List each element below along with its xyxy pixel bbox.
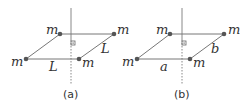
mass-label-bottom-right: m	[82, 55, 94, 70]
panel-a: m m m m L L (a)	[11, 8, 129, 101]
mass-dot-top-left	[168, 32, 173, 37]
mass-label-top-left: m	[46, 22, 58, 37]
side-label-slanted: L	[100, 41, 110, 56]
panel-caption: (a)	[63, 88, 78, 101]
mass-dot-bottom-left	[24, 57, 29, 62]
side-label-horizontal: a	[160, 59, 168, 74]
diagram-canvas: m m m m L L (a) m m m m a b (b)	[0, 0, 249, 108]
mass-label-top-right: m	[228, 22, 240, 37]
mass-label-top-right: m	[117, 22, 129, 37]
side-label-horizontal: L	[48, 59, 58, 74]
mass-label-bottom-left: m	[122, 54, 134, 69]
panel-b: m m m m a b (b)	[122, 8, 240, 101]
mass-dot-top-left	[58, 32, 63, 37]
side-label-slanted: b	[211, 41, 219, 56]
mass-label-bottom-right: m	[193, 55, 205, 70]
mass-dot-bottom-right	[77, 57, 82, 62]
mass-dot-bottom-right	[188, 57, 193, 62]
right-angle-dot	[73, 43, 74, 44]
mass-dot-top-right	[222, 32, 227, 37]
panel-caption: (b)	[174, 88, 190, 101]
edge-left	[26, 34, 60, 59]
right-angle-dot	[184, 43, 185, 44]
edge-left	[137, 34, 170, 59]
mass-dot-bottom-left	[135, 57, 140, 62]
mass-dot-top-right	[112, 32, 117, 37]
mass-label-bottom-left: m	[11, 54, 23, 69]
mass-label-top-left: m	[156, 22, 168, 37]
